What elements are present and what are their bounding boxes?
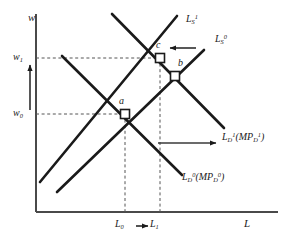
x-axis-label: L	[244, 218, 250, 229]
x-tick-label-L0: L0	[115, 219, 124, 230]
point-marker-b	[171, 72, 180, 81]
y-axis-label: w	[28, 12, 35, 23]
equilibrium-points	[121, 54, 180, 119]
curve-label-supply-0: LS0	[215, 34, 227, 46]
y-tick-label-w0: w0	[13, 108, 23, 119]
point-marker-a	[121, 110, 130, 119]
point-label-b: b	[178, 58, 183, 68]
curve-label-demand-1: LD1(MPD1)	[222, 132, 264, 144]
demand-curves	[62, 14, 224, 175]
curve-label-supply-1: LS1	[186, 14, 198, 26]
point-label-c: c	[156, 40, 160, 50]
labor-market-diagram: w L w1 w0 L0 L1 LS1 LS0 LD1(MPD1) LD0(MP…	[0, 0, 289, 246]
point-marker-c	[156, 54, 165, 63]
diagram-canvas	[0, 0, 289, 246]
curve-label-demand-0: LD0(MPD0)	[182, 172, 224, 184]
y-tick-label-w1: w1	[13, 52, 23, 63]
x-tick-label-L1: L1	[150, 219, 159, 230]
point-label-a: a	[119, 96, 124, 106]
